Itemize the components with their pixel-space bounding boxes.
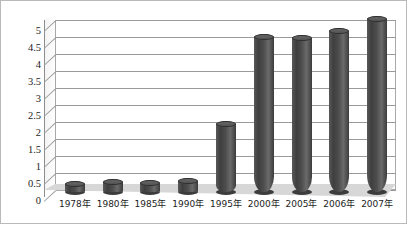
bar	[329, 31, 349, 193]
x-axis-tick-label: 2000年	[245, 197, 283, 210]
bar	[254, 37, 274, 192]
x-axis-tick-label: 1980年	[94, 197, 132, 210]
y-axis-tick-label: 4.5	[28, 43, 41, 53]
bar-top-outline	[216, 121, 236, 127]
bar	[178, 181, 198, 192]
x-axis-tick-label: 1995年	[207, 197, 245, 210]
bar-body	[329, 31, 349, 193]
y-axis-labels: 00.511.522.533.544.55	[1, 14, 41, 196]
y-axis-tick-label: 1	[36, 162, 41, 172]
y-axis-tick-label: 0.5	[28, 179, 41, 189]
bar	[367, 19, 387, 192]
bar	[140, 183, 160, 192]
y-axis-tick-label: 0	[36, 196, 41, 206]
y-axis-tick-label: 3	[36, 94, 41, 104]
x-axis-tick-label: 1985年	[132, 197, 170, 210]
chart-frame: 00.511.522.533.544.55 1978年1980年1985年199…	[0, 0, 407, 224]
y-axis-tick-label: 4	[36, 60, 41, 70]
x-axis-tick-label: 2007年	[358, 197, 396, 210]
y-axis-tick-label: 5	[36, 26, 41, 36]
bar-top-outline	[329, 28, 349, 34]
y-axis-tick-label: 1.5	[28, 145, 41, 155]
y-axis-tick-label: 3.5	[28, 77, 41, 87]
bar	[65, 184, 85, 192]
x-axis-tick-label: 2005年	[283, 197, 321, 210]
bar	[103, 182, 123, 192]
x-axis-labels: 1978年1980年1985年1990年1995年2000年2005年2006年…	[44, 197, 396, 213]
bar	[216, 124, 236, 192]
x-axis-tick-label: 1978年	[56, 197, 94, 210]
plot-area	[44, 14, 396, 196]
bar	[292, 38, 312, 192]
y-axis-tick-label: 2.5	[28, 111, 41, 121]
gridline	[56, 20, 396, 21]
bar-body	[216, 124, 236, 192]
bar-body	[367, 19, 387, 192]
y-axis-tick-label: 2	[36, 128, 41, 138]
bar-body	[254, 37, 274, 192]
x-axis-tick-label: 1990年	[169, 197, 207, 210]
bar-body	[292, 38, 312, 192]
bar-top-outline	[367, 16, 387, 22]
x-axis-tick-label: 2006年	[320, 197, 358, 210]
